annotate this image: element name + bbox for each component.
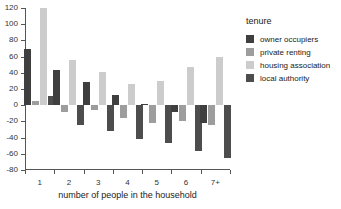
x-tick — [54, 170, 55, 174]
legend-swatch-icon — [246, 61, 254, 69]
y-tick-label: 100 — [5, 19, 18, 28]
x-tick — [201, 170, 202, 174]
x-tick-label: 4 — [116, 178, 140, 187]
bar — [187, 67, 194, 105]
bar — [120, 105, 127, 118]
y-tick: 80 — [21, 40, 25, 41]
legend-item-label: private renting — [260, 48, 311, 57]
x-tick-label: 6 — [174, 178, 198, 187]
bar — [171, 105, 178, 111]
bar — [216, 57, 223, 106]
x-tick — [142, 170, 143, 174]
bar — [77, 105, 84, 124]
legend-swatch-icon — [246, 48, 254, 56]
bar — [91, 105, 98, 110]
bar — [224, 105, 231, 158]
legend-item-label: local authority — [260, 74, 309, 83]
legend-item[interactable]: local authority — [246, 73, 341, 83]
y-tick: 100 — [21, 24, 25, 25]
x-axis-line — [25, 169, 230, 170]
x-tick-label: 5 — [145, 178, 169, 187]
bar — [69, 60, 76, 105]
y-tick: -40 — [21, 138, 25, 139]
bar — [40, 8, 47, 105]
y-tick-label: 40 — [9, 68, 18, 77]
y-tick-label: 120 — [5, 3, 18, 12]
legend-item[interactable]: owner occupiers — [246, 34, 341, 44]
bar — [83, 82, 90, 105]
bar — [32, 101, 39, 105]
x-tick-label: 2 — [57, 178, 81, 187]
legend-swatch-icon — [246, 35, 254, 43]
legend-item[interactable]: private renting — [246, 47, 341, 57]
y-tick: -60 — [21, 154, 25, 155]
y-tick: 0 — [21, 105, 25, 106]
bar — [208, 105, 215, 125]
plot-area: 120100806040200-20-40-60-80 1234567+ — [25, 8, 230, 170]
x-tick-label: 3 — [86, 178, 110, 187]
y-tick-label: -20 — [6, 116, 18, 125]
y-tick: -20 — [21, 121, 25, 122]
x-tick-label: 1 — [28, 178, 52, 187]
bar — [24, 49, 31, 105]
y-tick-label: -80 — [6, 165, 18, 174]
x-axis-title: number of people in the household — [25, 190, 230, 201]
legend-swatch-icon — [246, 74, 254, 82]
legend-item-label: housing association — [260, 61, 330, 70]
bar — [200, 105, 207, 123]
legend-title: tenure — [246, 16, 341, 26]
x-tick — [84, 170, 85, 174]
legend-items: owner occupiersprivate rentinghousing as… — [246, 34, 341, 83]
bar — [107, 105, 114, 131]
y-tick-label: -40 — [6, 133, 18, 142]
y-tick-label: 20 — [9, 84, 18, 93]
y-tick-label: 0 — [14, 100, 18, 109]
x-tick-label: 7+ — [203, 178, 227, 187]
legend-item-label: owner occupiers — [260, 35, 318, 44]
y-tick-label: 60 — [9, 52, 18, 61]
x-tick — [230, 170, 231, 174]
bar — [136, 105, 143, 139]
bar — [149, 105, 156, 123]
bar — [128, 84, 135, 105]
x-tick — [25, 170, 26, 174]
bar — [99, 72, 106, 105]
chart-figure: 120100806040200-20-40-60-80 1234567+ num… — [0, 0, 341, 209]
bar — [53, 70, 60, 106]
y-tick-label: -60 — [6, 149, 18, 158]
bar — [141, 104, 148, 105]
x-tick — [113, 170, 114, 174]
bar — [112, 95, 119, 105]
x-tick — [171, 170, 172, 174]
bar — [61, 105, 68, 112]
y-tick-label: 80 — [9, 35, 18, 44]
y-tick: 120 — [21, 8, 25, 9]
bar — [179, 105, 186, 121]
chart-legend: tenure owner occupiersprivate rentinghou… — [246, 16, 341, 86]
bar — [157, 81, 164, 105]
legend-item[interactable]: housing association — [246, 60, 341, 70]
